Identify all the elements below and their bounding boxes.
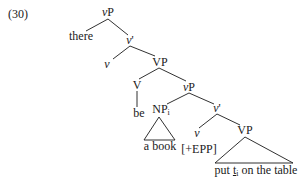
branch-root-vbar <box>108 19 128 35</box>
branch-vp-V <box>139 68 159 79</box>
node-vP-root: vP <box>102 6 114 18</box>
node-vbar-2: v' <box>213 102 221 114</box>
node-V-head: V <box>133 79 142 91</box>
tree-branches <box>0 0 304 185</box>
node-vP-root-suffix: P <box>107 5 114 19</box>
branch-vP-NP <box>167 93 189 104</box>
node-vP-inner-suffix: P <box>188 80 195 94</box>
node-vbar-1-suffix: ' <box>132 33 134 47</box>
node-epp-feature: [+EPP] <box>181 143 216 155</box>
node-there: there <box>69 30 93 42</box>
vp2-text-after: on the table <box>238 163 297 177</box>
branch-vbar2-v <box>199 114 217 128</box>
node-v-head-1: v <box>104 58 109 70</box>
node-be: be <box>133 107 144 119</box>
vp2-text-before: put <box>215 163 233 177</box>
node-vP-inner: vP <box>183 81 195 93</box>
np-triangle <box>144 117 175 140</box>
node-v-head-2: v <box>194 127 199 139</box>
branch-vP-vbar <box>189 93 214 104</box>
node-a-book: a book <box>144 140 176 152</box>
node-NP: NPi <box>152 103 170 119</box>
node-vbar-2-suffix: ' <box>219 101 221 115</box>
node-VP-1: VP <box>152 56 167 68</box>
example-number: (30) <box>8 8 28 20</box>
branch-vp-vP <box>159 68 186 81</box>
vp-triangle <box>215 137 293 163</box>
node-vp2-content: put ti on the table <box>215 164 298 180</box>
node-vbar-1: v' <box>126 34 134 46</box>
node-NP-index: i <box>168 108 170 117</box>
syntax-tree-diagram: (30) vP there v' v VP V be vP NPi a book… <box>0 0 304 185</box>
branch-vbar-vp <box>130 46 155 56</box>
node-NP-label: NP <box>152 102 167 116</box>
branch-vbar-v <box>113 46 130 59</box>
node-VP-2: VP <box>237 124 252 136</box>
